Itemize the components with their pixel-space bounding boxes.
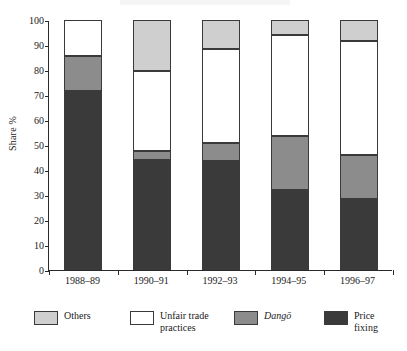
bar-3 [202,20,240,270]
y-tick-label: 80 [34,66,44,76]
bar-segment [133,160,171,270]
bar-segment [340,20,378,41]
x-tick-label: 1996–97 [340,275,375,287]
bar-segment [202,20,240,49]
y-tick-mark [45,21,50,22]
y-tick-label: 0 [39,266,44,276]
y-tick-label: 40 [34,166,44,176]
bar-segment [64,91,102,270]
bar-segment [202,143,240,162]
y-tick-label: 30 [34,191,44,201]
bar-segment [271,136,309,190]
x-tick-mark [255,270,256,275]
y-tick-label: 20 [34,216,44,226]
legend-item: Unfair trade practices [130,310,209,333]
legend-item: Price fixing [324,310,378,333]
y-tick-mark [45,46,50,47]
x-tick-mark [118,270,119,275]
clipped-title-artifact [120,0,290,5]
y-tick-mark [45,221,50,222]
bar-1 [64,20,102,270]
x-tick-mark [324,270,325,275]
y-tick-label: 10 [34,241,44,251]
bar-segment [271,20,309,35]
bar-2 [133,20,171,270]
y-tick-label: 90 [34,41,44,51]
legend-label: Dangō [264,310,291,322]
x-tick-label: 1994–95 [271,275,306,287]
y-tick-mark [45,146,50,147]
y-tick-label: 60 [34,116,44,126]
y-axis-tick-labels: 0102030405060708090100 [18,0,44,290]
bar-segment [133,71,171,151]
legend-swatch [130,311,154,325]
bar-segment [340,155,378,199]
y-tick-mark [45,121,50,122]
y-tick-mark [45,71,50,72]
x-tick-label: 1992–93 [203,275,238,287]
bar-segment [340,41,378,155]
y-tick-mark [45,246,50,247]
bar-5 [340,20,378,270]
bar-segment [133,151,171,160]
x-tick-label: 1990–91 [134,275,169,287]
bar-segment [64,56,102,91]
x-tick-mark [393,270,394,275]
bar-segment [202,49,240,143]
plot-area [48,21,392,271]
y-tick-mark [45,196,50,197]
bar-segment [271,35,309,136]
bar-group [49,21,392,270]
legend-swatch [34,311,58,325]
bar-segment [271,190,309,270]
stacked-bar-chart: Share % 0102030405060708090100 1988–8919… [0,0,407,351]
legend-item: Others [34,310,91,325]
bar-4 [271,20,309,270]
legend-label: Price fixing [354,310,378,333]
x-tick-label: 1988–89 [65,275,100,287]
y-tick-mark [45,171,50,172]
legend-item: Dangō [234,310,291,325]
y-axis-title: Share % [7,94,18,174]
bar-segment [133,20,171,71]
bar-segment [340,199,378,270]
bar-segment [64,20,102,56]
legend-swatch [234,311,258,325]
x-tick-mark [187,270,188,275]
legend-label: Others [64,310,91,322]
y-tick-mark [45,96,50,97]
y-tick-label: 70 [34,91,44,101]
chart-legend: OthersUnfair trade practicesDangōPrice f… [34,310,404,346]
legend-label: Unfair trade practices [160,310,209,333]
x-axis-tick-labels: 1988–891990–911992–931994–951996–97 [48,275,392,291]
x-tick-mark [49,270,50,275]
y-tick-label: 100 [29,16,44,26]
legend-swatch [324,311,348,325]
y-tick-label: 50 [34,141,44,151]
bar-segment [202,161,240,270]
